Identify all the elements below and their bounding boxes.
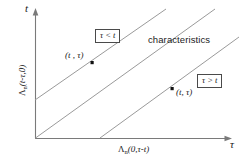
y-axis bbox=[33, 8, 39, 138]
point-marker-lower bbox=[171, 87, 174, 90]
region-label-tau-less-than-t: τ < t bbox=[95, 29, 120, 43]
y-axis-title: Λn(t-τ,0) bbox=[18, 65, 29, 96]
y-axis-title-arguments: (t-τ,0) bbox=[17, 65, 27, 86]
x-axis bbox=[35, 136, 232, 142]
y-axis-variable-label: t bbox=[25, 3, 28, 14]
characteristic-line-upper bbox=[35, 9, 166, 100]
characteristics-label: characteristics bbox=[148, 35, 210, 45]
characteristics-diagram: t τ Λn(t-τ,0) Λn(0,τ-t) τ < t τ > t char… bbox=[0, 0, 243, 164]
characteristic-line-lower bbox=[100, 37, 239, 138]
x-axis-variable-label: τ bbox=[230, 139, 234, 150]
point-label-lower: (t, τ) bbox=[176, 88, 192, 97]
x-axis-title: Λn(0,τ-t) bbox=[118, 145, 149, 156]
point-label-upper: (t , τ) bbox=[65, 51, 83, 60]
y-axis-title-subscript: n bbox=[21, 86, 28, 89]
x-axis-title-arguments: (0,τ-t) bbox=[128, 144, 149, 154]
region-label-tau-greater-than-t: τ > t bbox=[197, 74, 222, 88]
y-axis-title-lambda: Λ bbox=[17, 89, 27, 96]
marked-points bbox=[91, 61, 174, 90]
point-marker-upper bbox=[91, 61, 94, 64]
